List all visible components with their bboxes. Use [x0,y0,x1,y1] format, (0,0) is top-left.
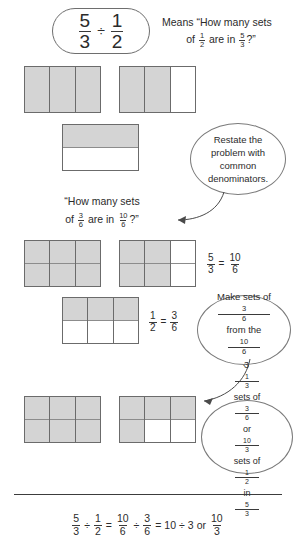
bar-cell [25,263,49,286]
bar-cell [25,67,49,112]
denominator: 6 [120,220,126,229]
make-sets-prefix: Make sets of [217,289,271,305]
numerator: 10 [118,212,128,220]
summary-fraction-4: 36 [143,513,151,536]
restate-fraction-ten-sixths: 106 [118,212,128,229]
numerator: 5 [235,501,260,508]
summary-fraction-2: 12 [94,513,102,536]
bar-column [144,241,169,286]
bar-cell [120,419,144,442]
restate-line-2: of 36 are in 106?” [38,210,166,229]
bar-thirds-full [24,66,101,113]
make-sets-line2-prefix: from the [227,322,262,338]
answer-mixed-number: 313 [234,357,261,389]
numerator: 5 [239,32,245,40]
numerator: 10 [235,437,260,444]
denominator: 6 [235,413,260,421]
denominator: 6 [143,525,151,537]
bar-column [63,125,138,170]
equals-sign: = [219,259,225,269]
bar-column [120,241,144,286]
summary-inline: 53 ÷ 12 = 106 ÷ 36 = 10 ÷ 3 or 103 [71,513,224,536]
bar-cell [171,241,195,263]
callout-line: denominators. [208,172,268,185]
numerator: 5 [79,11,92,30]
denominator: 6 [170,322,178,333]
bar-cell [76,263,100,286]
answer-line1-middle: sets of [234,389,261,405]
bar-sets-partial [119,396,196,443]
bar-cell [145,241,169,263]
bar-cell [63,298,87,320]
summary-equals-1: = [106,519,112,531]
bar-cell [171,397,195,419]
bar-column [49,241,74,286]
bar-cell [63,320,87,343]
bar-cell [171,419,195,442]
bar-cell [50,241,74,263]
make-sets-callout: Make sets of 36 from the 106. [197,295,291,365]
numerator: 5 [72,513,80,524]
answer-line3-middle2: in [234,485,261,501]
bar-column [170,241,195,286]
summary-fraction-3: 106 [116,513,130,536]
numerator: 1 [235,469,260,476]
numerator: 3 [143,513,151,524]
restate-line2-suffix: ?” [129,213,138,225]
bar-cell [88,320,112,343]
bar-cell [114,298,138,320]
intro-line2-suffix: ?” [246,33,255,45]
numerator: 3 [170,311,178,321]
summary-equals-2: = [155,519,161,531]
summary-fraction-1: 53 [72,513,80,536]
bar-cell [76,241,100,263]
equation-half-to-sixths: 1 2 = 3 6 [148,311,179,333]
denominator: 6 [231,264,239,275]
make-sets-fraction-three-sixths: 36 [218,305,270,322]
summary-operator-1: ÷ [84,519,90,531]
restate-line-1: “How many sets [38,192,166,210]
bar-cell [120,241,144,263]
restate-fraction-three-sixths: 36 [78,212,84,229]
bar-column [49,67,74,112]
denominator: 2 [149,322,157,333]
intro-fraction-half: 12 [199,32,205,49]
bar-cell [120,67,144,112]
bar-cell [120,263,144,286]
bar-thirds-partial [119,66,196,113]
restate-line2-prefix: of [65,213,77,225]
denominator: 2 [111,31,124,51]
numerator: 1 [199,32,205,40]
callout-line: 313 sets of 36 [234,357,261,421]
numerator: 3 [235,405,260,412]
denominator: 2 [94,525,102,537]
equation-right-fraction: 10 6 [228,253,241,275]
callout-line: problem with [211,146,265,159]
expression-right-fraction: 1 2 [111,11,124,51]
bar-cell [50,263,74,286]
bar-column [25,397,49,442]
bar-column [144,67,169,112]
bar-cell [25,241,49,263]
bar-cell [50,419,74,442]
callout-line: Make sets of 36 [217,289,271,322]
bar-column [87,298,112,343]
bar-column [25,67,49,112]
intro-fraction-five-thirds: 53 [239,32,245,49]
bar-column [63,298,87,343]
denominator: 6 [119,525,127,537]
bar-column [49,397,74,442]
summary-equation: 53 ÷ 12 = 106 ÷ 36 = 10 ÷ 3 or 103 [0,512,296,536]
intro-text: Means “How many sets of 12 are in 53?” [160,14,296,49]
numerator: 1 [149,311,157,321]
bar-cell [88,298,112,320]
numerator: 10 [116,513,130,524]
numerator: 3 [78,212,84,220]
denominator: 3 [72,525,80,537]
mixed-fraction: 13 [235,373,260,389]
callout-line: common [220,159,256,172]
denominator: 3 [239,40,245,49]
denominator: 6 [78,220,84,229]
bar-cell [120,397,144,419]
bar-cell [76,67,100,112]
